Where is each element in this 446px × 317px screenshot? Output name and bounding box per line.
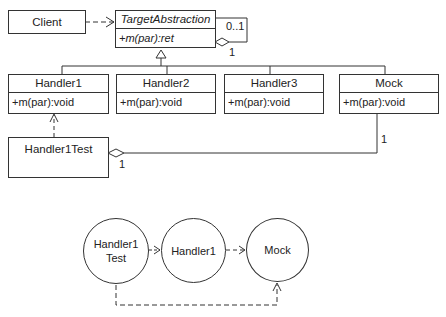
client-class[interactable]: Client <box>8 10 86 34</box>
multiplicity-label: 1 <box>381 133 387 145</box>
node-handler1[interactable]: Handler1 <box>161 218 226 283</box>
multiplicity-label: 1 <box>229 46 235 58</box>
node-label: Mock <box>264 243 290 257</box>
node-label: Handler1 <box>94 238 139 250</box>
mock-class[interactable]: Mock +m(par):void <box>339 74 439 114</box>
mock-association-line <box>124 113 377 153</box>
node-label: Test <box>106 252 126 264</box>
aggregation-diamond-icon <box>215 38 229 46</box>
target-abstraction-class[interactable]: TargetAbstraction +m(par):ret <box>115 10 216 48</box>
node-handler1test[interactable]: Handler1Test <box>83 218 149 284</box>
multiplicity-label: 0..1 <box>226 20 244 32</box>
handler2-class[interactable]: Handler2 +m(par):void <box>116 74 216 114</box>
node-mock[interactable]: Mock <box>246 218 309 282</box>
handler1-class[interactable]: Handler1 +m(par):void <box>8 74 109 114</box>
aggregation-diamond-icon <box>108 149 124 157</box>
multiplicity-label: 1 <box>119 158 125 170</box>
generalization-triangle-icon <box>156 50 166 58</box>
handler1test-class[interactable]: Handler1Test <box>8 137 109 178</box>
node-label: Handler1 <box>171 244 216 258</box>
handler3-class[interactable]: Handler3 +m(par):void <box>224 74 324 114</box>
